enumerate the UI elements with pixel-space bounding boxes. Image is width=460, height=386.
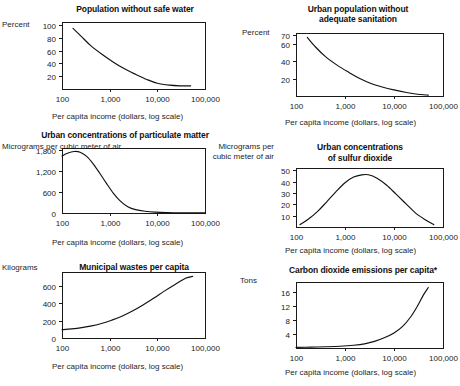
x-axis-label-sulfur: Per capita income (dollars, log scale) (258, 246, 443, 256)
x-axis-label-safe-water: Per capita income (dollars, log scale) (25, 112, 210, 122)
x-tick-label: 100,000 (429, 233, 458, 242)
y-tick-label: 200 (43, 318, 57, 327)
y-tick-label: 400 (43, 300, 57, 309)
panel-safe-water: Population without safe water Percent 20… (0, 0, 230, 130)
data-curve (296, 288, 428, 348)
y-tick-label: 100 (43, 22, 57, 31)
y-tick-label: 4 (286, 331, 291, 340)
data-curve (62, 151, 205, 212)
plot-sulfur: 10203040501001,00010,000100,000 (230, 128, 460, 246)
x-tick-label: 100 (290, 233, 304, 242)
panel-wastes: Municipal wastes per capita Kilograms 02… (0, 256, 230, 386)
x-axis-label-wastes: Per capita income (dollars, log scale) (25, 362, 210, 372)
y-tick-label: 60 (281, 41, 290, 50)
x-tick-label: 1,000 (100, 95, 121, 104)
x-tick-label: 1,000 (335, 354, 356, 363)
y-tick-label: 20 (281, 76, 290, 85)
y-tick-label: 40 (281, 179, 290, 188)
y-tick-label: 40 (47, 60, 56, 69)
x-tick-label: 100,000 (191, 344, 220, 353)
data-curve (73, 28, 191, 85)
x-tick-label: 100 (56, 219, 70, 228)
y-tick-label: 50 (281, 167, 290, 176)
x-tick-label: 10,000 (382, 233, 407, 242)
y-tick-label: 0 (52, 210, 57, 219)
panel-carbon: Carbon dioxide emissions per capita* Ton… (230, 256, 460, 386)
y-tick-label: 30 (281, 190, 290, 199)
x-tick-label: 10,000 (382, 354, 407, 363)
x-tick-label: 100 (56, 344, 70, 353)
y-tick-label: 60 (47, 48, 56, 57)
x-tick-label: 1,000 (100, 219, 121, 228)
plot-sanitation: 204060701001,00010,000100,000 (230, 0, 460, 118)
x-tick-label: 100 (56, 95, 70, 104)
y-tick-label: 600 (43, 189, 57, 198)
environmental-kuznets-curve-figure: Population without safe water Percent 20… (0, 0, 460, 386)
x-tick-label: 100,000 (429, 102, 458, 111)
y-tick-label: 0 (52, 335, 57, 344)
x-axis-label-sanitation: Per capita income (dollars, log scale) (258, 118, 443, 128)
y-tick-label: 20 (281, 201, 290, 210)
x-tick-label: 1,000 (335, 233, 356, 242)
x-tick-label: 100 (290, 102, 304, 111)
y-tick-label: 12 (281, 303, 290, 312)
y-tick-label: 20 (47, 73, 56, 82)
data-curve (62, 276, 193, 329)
x-tick-label: 100,000 (191, 219, 220, 228)
x-tick-label: 100,000 (429, 354, 458, 363)
y-tick-label: 16 (281, 289, 290, 298)
x-tick-label: 10,000 (145, 219, 170, 228)
plot-safe-water: 204060801001001,00010,000100,000 (0, 0, 230, 110)
x-tick-label: 10,000 (145, 95, 170, 104)
y-tick-label: 1,200 (36, 168, 57, 177)
panel-sulfur: Urban concentrations of sulfur dioxide M… (230, 128, 460, 258)
data-curve (300, 174, 434, 224)
x-tick-label: 100,000 (191, 95, 220, 104)
y-tick-label: 80 (47, 35, 56, 44)
data-curve (307, 37, 428, 95)
plot-wastes: 02004006001001,00010,000100,000 (0, 256, 230, 360)
x-tick-label: 1,000 (100, 344, 121, 353)
x-axis-label-particulate: Per capita income (dollars, log scale) (25, 238, 210, 248)
y-tick-label: 8 (286, 317, 291, 326)
plot-carbon: 4812161001,00010,000100,000 (230, 256, 460, 368)
y-tick-label: 70 (281, 32, 290, 41)
y-tick-label: 40 (281, 58, 290, 67)
x-axis-label-carbon: Per capita income (dollars, log scale) (258, 368, 443, 378)
panel-sanitation: Urban population without adequate sanita… (230, 0, 460, 130)
x-tick-label: 10,000 (382, 102, 407, 111)
y-tick-label: 10 (281, 213, 290, 222)
x-tick-label: 100 (290, 354, 304, 363)
x-tick-label: 1,000 (335, 102, 356, 111)
x-tick-label: 10,000 (145, 344, 170, 353)
y-tick-label: 600 (43, 283, 57, 292)
y-tick-label: 1,800 (36, 147, 57, 156)
